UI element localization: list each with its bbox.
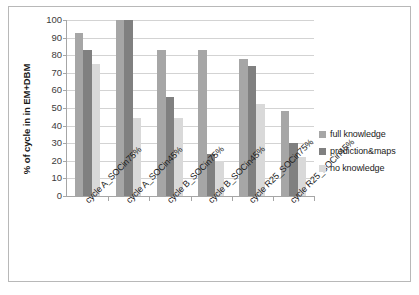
legend-label: no knowledge: [330, 163, 384, 173]
y-axis-tick-label: 60: [38, 85, 62, 95]
y-axis-tick-mark: [63, 196, 67, 197]
bar: [281, 111, 290, 196]
legend-label: full knowledge: [330, 129, 386, 139]
chart-legend: full knowledgeprediction&mapsno knowledg…: [319, 126, 411, 177]
y-axis-tick-label: 40: [38, 121, 62, 131]
y-axis-tick-label: 30: [38, 138, 62, 148]
bar: [92, 64, 101, 196]
legend-swatch: [319, 148, 326, 155]
y-axis-tick-labels: 1009080706050403020100: [38, 20, 62, 196]
x-axis-tick-labels: cycle A_SOCin75%cycle A_SOCin45%cycle B_…: [66, 198, 316, 282]
y-axis-tick-label: 0: [38, 191, 62, 201]
chart-figure: % of cycle in in EM+DBM 1009080706050403…: [0, 0, 419, 295]
y-axis-tick-label: 100: [38, 15, 62, 25]
legend-swatch: [319, 131, 326, 138]
legend-item: full knowledge: [319, 126, 411, 142]
bar: [83, 50, 92, 196]
y-axis-tick-label: 90: [38, 33, 62, 43]
y-axis-tick-label: 50: [38, 103, 62, 113]
legend-item: prediction&maps: [319, 143, 411, 159]
legend-item: no knowledge: [319, 160, 411, 176]
bar-group: [67, 20, 108, 196]
legend-label: prediction&maps: [330, 146, 396, 156]
y-axis-tick-label: 20: [38, 156, 62, 166]
y-axis-tick-label: 70: [38, 68, 62, 78]
legend-swatch: [319, 165, 326, 172]
y-axis-title: % of cycle in in EM+DBM: [21, 29, 35, 209]
bar: [166, 97, 175, 196]
bar: [124, 20, 133, 196]
y-axis-tick-label: 10: [38, 173, 62, 183]
bar: [248, 66, 257, 196]
y-axis-tick-label: 80: [38, 50, 62, 60]
bar: [75, 33, 84, 196]
